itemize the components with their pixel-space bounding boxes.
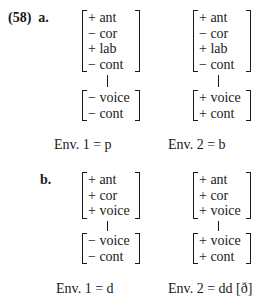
feature: + voice <box>88 203 134 219</box>
part-a-env2-caption: Env. 2 = b <box>168 137 226 153</box>
feature: + voice <box>199 90 245 106</box>
feature: + cont <box>199 106 245 122</box>
part-b-env1-lower-matrix: − voice − cont <box>82 233 140 264</box>
part-a-label: a. <box>38 10 49 25</box>
feature: + lab <box>88 41 134 57</box>
part-a-env1-upper-matrix: + ant − cor + lab − cont <box>82 10 140 72</box>
feature: − cont <box>88 249 134 265</box>
feature: + lab <box>199 41 245 57</box>
feature: + voice <box>199 233 245 249</box>
part-a-env2-upper-matrix: + ant − cor + lab − cont <box>193 10 251 72</box>
feature: + cor <box>88 188 134 204</box>
feature: + ant <box>199 172 245 188</box>
feature: − cor <box>88 26 134 42</box>
feature: + voice <box>199 203 245 219</box>
part-b-env1-upper-matrix: + ant + cor + voice <box>82 172 140 219</box>
feature: − cont <box>88 57 134 73</box>
association-line <box>107 75 108 87</box>
feature: − cont <box>88 106 134 122</box>
part-b-label: b. <box>40 172 51 188</box>
feature: + ant <box>88 172 134 188</box>
feature: + cor <box>199 188 245 204</box>
feature: − voice <box>88 90 134 106</box>
feature: − cont <box>199 57 245 73</box>
part-a-env1-lower-matrix: − voice − cont <box>82 90 140 121</box>
part-b-env1-caption: Env. 1 = d <box>56 281 114 297</box>
feature: + ant <box>88 10 134 26</box>
feature: + cont <box>199 249 245 265</box>
association-line <box>107 221 108 231</box>
part-b-env2-lower-matrix: + voice + cont <box>193 233 251 264</box>
example-number-text: (58) <box>8 10 31 25</box>
association-line <box>218 221 219 231</box>
part-a-env2-lower-matrix: + voice + cont <box>193 90 251 121</box>
feature: − cor <box>199 26 245 42</box>
part-b-env2-caption: Env. 2 = dd [ð] <box>168 281 252 297</box>
feature: − voice <box>88 233 134 249</box>
feature: + ant <box>199 10 245 26</box>
association-line <box>218 75 219 87</box>
example-number: (58) a. <box>8 10 49 26</box>
part-b-env2-upper-matrix: + ant + cor + voice <box>193 172 251 219</box>
part-a-env1-caption: Env. 1 = p <box>54 137 112 153</box>
